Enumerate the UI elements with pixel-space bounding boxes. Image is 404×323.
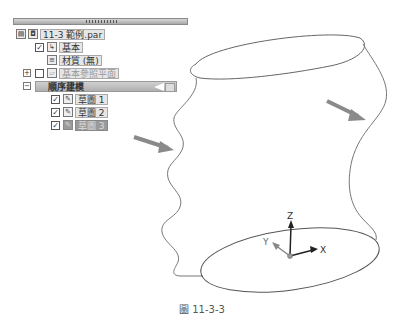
svg-text:X: X xyxy=(320,245,326,255)
svg-text:Y: Y xyxy=(262,237,269,247)
model-viewport[interactable]: Z X Y xyxy=(0,0,404,323)
right-guide-curve xyxy=(349,44,386,240)
coordinate-triad-icon: Z X Y xyxy=(262,211,326,259)
top-profile-curve xyxy=(190,35,364,79)
left-guide-curve xyxy=(162,78,203,276)
arrow-right-icon xyxy=(327,101,366,121)
bottom-profile-ellipse xyxy=(197,218,384,302)
arrow-left-icon xyxy=(134,137,174,153)
figure-caption: 圖 11-3-3 xyxy=(0,301,404,316)
svg-text:Z: Z xyxy=(287,211,293,221)
